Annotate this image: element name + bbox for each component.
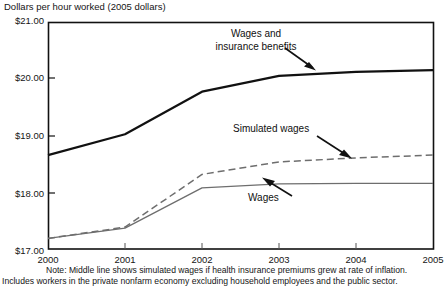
annotation-label-simulated-wages: Simulated wages: [233, 123, 309, 135]
annotation-label-wages: Wages: [248, 192, 279, 204]
annotation-label-wages-and-insurance-benefits-line2: insurance benefits: [185, 41, 327, 53]
annotation-arrow-simulated-wages: [317, 136, 352, 159]
x-axis-ticks: [125, 243, 356, 249]
chart-note-2: Includes workers in the private nonfarm …: [2, 276, 398, 287]
chart-figure: Dollars per hour worked (2005 dollars) $…: [0, 0, 444, 292]
annotation-label-wages-and-insurance-benefits-line1: Wages and: [196, 28, 316, 40]
chart-note-1: Note: Middle line shows simulated wages …: [46, 265, 407, 276]
plot-frame: [49, 23, 434, 250]
series-line-simulated-wages: [48, 155, 433, 238]
y-axis-ticks: [49, 78, 56, 193]
series-line-wages-and-insurance-benefits: [48, 70, 433, 155]
